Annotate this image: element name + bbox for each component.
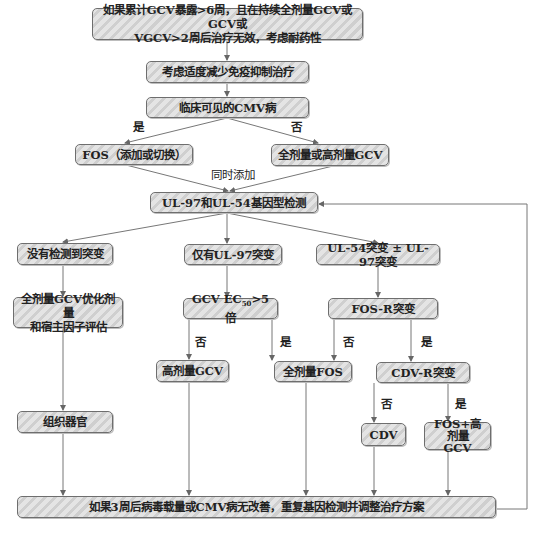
edge-label-yes-clinical: 是 (133, 118, 144, 134)
node-reduce-immunosuppression-label: 考虑适度减少免疫抑制治疗 (162, 65, 294, 79)
node-resistance-criteria-line1: 如果累计GCV暴露>6周，且在持续全剂量GCV或GCV或 (97, 3, 358, 31)
node-fos-add-or-switch: FOS（添加或切换） (75, 144, 193, 165)
edge-label-ec50-no: 否 (195, 333, 206, 349)
node-high-dose-gcv: 高剂量GCV (156, 360, 229, 382)
node-fos-plus-high-dose-gcv-line2: GCV (444, 442, 472, 454)
edge-label-fosr-yes: 是 (421, 333, 432, 349)
node-no-mutation-detected-label: 没有检测到突变 (27, 247, 104, 261)
node-fos-r-mutation: FOS-R突变 (328, 298, 438, 319)
node-gcv-ec50: GCV EC50>5倍 (183, 298, 278, 319)
node-gcv-ec50-label: GCV EC50>5倍 (188, 292, 273, 325)
node-clinical-cmv-disease-label: 临床可见的CMV病 (179, 101, 276, 115)
node-resistance-criteria-line2: VGCV>2周后治疗无效，考虑耐药性 (134, 31, 320, 45)
node-high-dose-gcv-label: 高剂量GCV (162, 364, 223, 378)
node-full-or-high-dose-gcv: 全剂量或高剂量GCV (271, 144, 389, 166)
node-fos-plus-high-dose-gcv-line1: FOS+高剂量 (429, 418, 486, 442)
node-ul97-mutation-only: 仅有UL-97突变 (184, 244, 282, 265)
edge-label-simultaneous-add: 同时添加 (211, 166, 255, 182)
node-reassess-after-3-weeks: 如果3周后病毒载量或CMV病无改善，重复基因检测并调整治疗方案 (17, 496, 496, 518)
node-genotype-testing-label: UL-97和UL-54基因型检测 (162, 196, 306, 210)
node-fos-plus-high-dose-gcv: FOS+高剂量 GCV (424, 422, 491, 450)
node-tissue-organ-label: 组织器官 (43, 415, 87, 429)
node-full-dose-fos-label: 全剂量FOS (283, 365, 343, 379)
node-clinical-cmv-disease: 临床可见的CMV病 (146, 97, 309, 118)
node-fos-add-or-switch-label: FOS（添加或切换） (82, 148, 186, 162)
node-ul97-mutation-only-label: 仅有UL-97突变 (192, 248, 275, 262)
node-resistance-criteria: 如果累计GCV暴露>6周，且在持续全剂量GCV或GCV或 VGCV>2周后治疗无… (92, 8, 363, 40)
node-optimize-gcv-line1: 全剂量GCV优化剂量 (18, 292, 118, 320)
node-fos-r-mutation-label: FOS-R突变 (351, 302, 414, 316)
node-cdv: CDV (361, 423, 406, 446)
node-reassess-after-3-weeks-label: 如果3周后病毒载量或CMV病无改善，重复基因检测并调整治疗方案 (89, 500, 425, 514)
node-optimize-gcv-host-eval: 全剂量GCV优化剂量 和宿主因子评估 (13, 297, 123, 328)
node-cdv-r-mutation-label: CDV-R突变 (391, 366, 454, 380)
node-no-mutation-detected: 没有检测到突变 (17, 243, 113, 265)
edge-label-cdvr-yes: 是 (455, 395, 466, 411)
edge-label-fosr-no: 否 (343, 333, 354, 349)
edge-label-cdvr-no: 否 (381, 395, 392, 411)
cmv-resistance-flowchart: 如果累计GCV暴露>6周，且在持续全剂量GCV或GCV或 VGCV>2周后治疗无… (0, 0, 536, 533)
node-full-or-high-dose-gcv-label: 全剂量或高剂量GCV (278, 148, 383, 162)
node-reduce-immunosuppression: 考虑适度减少免疫抑制治疗 (146, 61, 309, 83)
edge-label-no-clinical: 否 (291, 118, 302, 134)
node-full-dose-fos: 全剂量FOS (274, 361, 352, 382)
node-genotype-testing: UL-97和UL-54基因型检测 (150, 192, 318, 213)
node-cdv-r-mutation: CDV-R突变 (376, 362, 470, 383)
node-optimize-gcv-line2: 和宿主因子评估 (30, 320, 107, 334)
node-tissue-organ: 组织器官 (17, 411, 113, 433)
node-ul54-mutation: UL-54突变 ± UL-97突变 (316, 244, 440, 265)
node-cdv-label: CDV (370, 428, 398, 442)
edge-label-ec50-yes: 是 (280, 333, 291, 349)
node-ul54-mutation-label: UL-54突变 ± UL-97突变 (321, 241, 435, 269)
